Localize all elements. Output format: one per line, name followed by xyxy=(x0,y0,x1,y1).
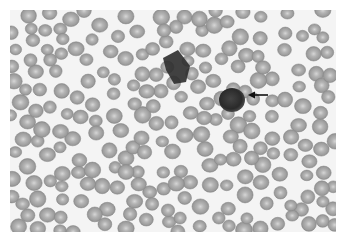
red-blood-cell xyxy=(10,171,21,186)
red-blood-cell xyxy=(296,30,308,41)
red-blood-cell xyxy=(118,165,134,180)
red-blood-cell xyxy=(312,119,328,134)
red-blood-cell xyxy=(80,177,96,190)
red-blood-cell xyxy=(193,220,206,232)
red-blood-cell xyxy=(146,43,160,56)
red-blood-cell xyxy=(265,72,279,86)
red-blood-cell xyxy=(192,199,209,214)
red-blood-cell xyxy=(134,131,149,145)
red-blood-cell xyxy=(146,198,159,211)
red-blood-cell xyxy=(81,74,95,88)
red-blood-cell xyxy=(30,191,46,207)
red-blood-cell xyxy=(202,178,218,193)
red-blood-cell xyxy=(73,110,88,124)
red-blood-cell xyxy=(174,212,186,224)
red-blood-cell xyxy=(11,219,27,232)
red-blood-cell xyxy=(302,155,317,168)
red-blood-cell xyxy=(19,159,36,175)
red-blood-cell xyxy=(254,11,267,22)
red-blood-cell xyxy=(131,178,146,191)
red-blood-cell xyxy=(123,207,136,220)
red-blood-cell xyxy=(28,65,43,79)
red-blood-cell xyxy=(85,98,100,112)
red-blood-cell xyxy=(183,175,198,189)
red-blood-cell xyxy=(265,132,280,146)
red-blood-cell xyxy=(266,95,279,107)
red-blood-cell xyxy=(226,152,241,166)
red-blood-cell xyxy=(55,48,68,60)
red-blood-cell xyxy=(272,167,288,181)
red-blood-cell xyxy=(111,30,124,42)
red-blood-cell xyxy=(177,128,194,142)
red-blood-cell xyxy=(26,176,42,191)
red-blood-cell xyxy=(108,74,120,86)
red-blood-cell xyxy=(87,207,102,222)
red-blood-cell xyxy=(44,101,57,113)
red-blood-cell xyxy=(25,23,37,34)
red-blood-cell xyxy=(314,106,328,119)
red-blood-cell xyxy=(26,34,40,46)
red-blood-cell xyxy=(128,98,142,110)
red-blood-cell xyxy=(193,127,210,142)
red-blood-cell xyxy=(239,48,255,62)
red-blood-cell xyxy=(29,104,44,118)
red-blood-cell xyxy=(74,195,89,208)
red-blood-cell xyxy=(157,24,171,37)
red-blood-cell xyxy=(213,212,226,224)
red-blood-cell xyxy=(146,100,160,113)
red-blood-cell xyxy=(322,90,335,103)
red-blood-cell xyxy=(149,68,163,82)
red-blood-cell xyxy=(84,162,101,178)
red-blood-cell xyxy=(253,32,267,45)
red-blood-cell xyxy=(97,67,109,78)
red-blood-cell xyxy=(183,107,198,120)
red-blood-cell xyxy=(80,54,93,66)
red-blood-cell xyxy=(316,215,329,228)
red-blood-cells xyxy=(10,10,336,232)
red-blood-cell xyxy=(135,67,150,82)
red-blood-cell xyxy=(70,91,84,105)
red-blood-cell xyxy=(113,124,129,138)
red-blood-cell xyxy=(223,220,236,232)
red-blood-cell xyxy=(306,47,321,61)
red-blood-cell xyxy=(54,23,67,35)
red-blood-cell xyxy=(41,44,53,55)
red-blood-cell xyxy=(265,110,278,122)
red-blood-cell xyxy=(127,80,139,91)
red-blood-cell xyxy=(278,43,292,56)
red-blood-cell xyxy=(317,196,329,207)
red-blood-cell xyxy=(301,190,315,204)
red-blood-cell xyxy=(197,142,213,157)
red-blood-cell xyxy=(253,221,268,232)
red-blood-cell xyxy=(68,42,84,56)
red-blood-cell xyxy=(89,115,102,127)
red-blood-cell xyxy=(302,217,317,232)
red-blood-cell xyxy=(197,111,212,124)
red-blood-cell xyxy=(321,46,334,58)
red-blood-cell xyxy=(175,91,188,102)
red-blood-cell xyxy=(16,198,30,210)
red-blood-cell xyxy=(161,204,174,217)
red-blood-cell xyxy=(165,116,178,129)
red-blood-cell xyxy=(92,18,108,32)
red-blood-cell xyxy=(61,108,73,119)
red-blood-cell xyxy=(50,65,63,78)
red-blood-cell xyxy=(42,10,57,19)
red-blood-cell xyxy=(244,123,260,139)
red-blood-cell xyxy=(10,110,17,121)
red-blood-cell xyxy=(284,148,298,161)
red-blood-cell xyxy=(256,61,271,74)
red-blood-cell xyxy=(54,211,67,224)
red-blood-cell xyxy=(279,27,292,39)
red-blood-cell xyxy=(314,181,329,196)
red-blood-cell xyxy=(286,210,299,221)
red-blood-cell xyxy=(293,81,306,92)
red-blood-cell xyxy=(292,64,306,76)
red-blood-cell xyxy=(130,25,145,38)
red-blood-cell xyxy=(106,109,122,124)
red-blood-cell xyxy=(89,126,104,140)
red-blood-cell xyxy=(20,84,32,95)
red-blood-cell xyxy=(118,221,134,232)
red-blood-cell xyxy=(39,208,55,222)
red-blood-cell xyxy=(274,186,287,199)
